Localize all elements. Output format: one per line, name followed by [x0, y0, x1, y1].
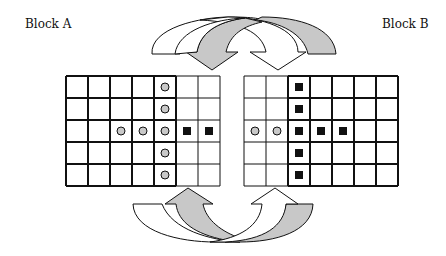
square-marker-icon	[205, 127, 213, 135]
block-diagram	[0, 0, 446, 256]
circle-marker-icon	[139, 127, 147, 135]
circle-marker-icon	[161, 171, 169, 179]
circle-marker-icon	[161, 149, 169, 157]
block-a-grid	[66, 76, 220, 186]
circle-marker-icon	[161, 127, 169, 135]
circle-marker-icon	[161, 105, 169, 113]
bottom-arrows	[133, 188, 313, 242]
square-marker-icon	[295, 83, 303, 91]
circle-marker-icon	[273, 127, 281, 135]
square-marker-icon	[183, 127, 191, 135]
square-marker-icon	[295, 171, 303, 179]
square-marker-icon	[317, 127, 325, 135]
circle-marker-icon	[161, 83, 169, 91]
circle-marker-icon	[117, 127, 125, 135]
circle-marker-icon	[251, 127, 259, 135]
square-marker-icon	[339, 127, 347, 135]
top-arrows	[152, 17, 336, 70]
square-marker-icon	[295, 105, 303, 113]
block-b-grid	[244, 76, 398, 186]
square-marker-icon	[295, 149, 303, 157]
square-marker-icon	[295, 127, 303, 135]
